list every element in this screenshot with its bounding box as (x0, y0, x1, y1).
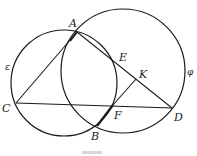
label-circle-phi: φ (187, 67, 194, 77)
segment-CD (16, 103, 172, 108)
segment-BF-bold (97, 105, 113, 126)
label-D: D (173, 111, 183, 124)
segment-AD (77, 32, 172, 108)
label-C: C (2, 102, 11, 115)
label-circle-epsilon: ε (5, 62, 10, 72)
label-F: F (113, 109, 122, 122)
segment-AC (16, 32, 77, 103)
circle-phi (61, 9, 185, 133)
label-E: E (118, 51, 127, 64)
geometry-figure: A C D B F E K ε φ (0, 0, 197, 156)
label-A: A (68, 17, 77, 30)
label-K: K (138, 68, 148, 81)
label-B: B (90, 130, 99, 143)
diagram-canvas: A C D B F E K ε φ (0, 0, 197, 156)
caption-smudge (82, 151, 102, 154)
